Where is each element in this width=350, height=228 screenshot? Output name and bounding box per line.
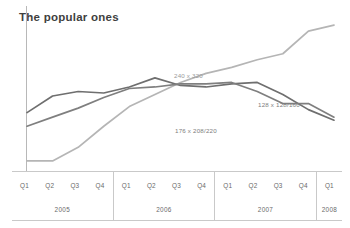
quarter-row: Q1 [317,172,342,198]
year-row: 2005 [12,198,113,220]
series-label-176x208220: 176 x 208/220 [175,127,217,134]
quarter-row: Q1Q2Q3Q4 [215,172,316,198]
quarter-row: Q1Q2Q3Q4 [12,172,113,198]
quarter-label: Q4 [291,182,316,189]
year-row: 2006 [114,198,215,220]
year-label: 2008 [322,206,337,213]
year-group-2006: Q1Q2Q3Q42006 [114,172,216,220]
plot-area: 240 x 320 128 x 128/160 176 x 208/220 [12,6,342,171]
quarter-label: Q1 [12,182,37,189]
quarter-label: Q2 [240,182,265,189]
quarter-label: Q3 [164,182,189,189]
year-group-2008: Q12008 [317,172,342,220]
series-label-240x320: 240 x 320 [174,72,203,79]
plot-svg [12,6,342,171]
series-label-128x128160: 128 x 128/160 [258,101,300,108]
quarter-label: Q2 [139,182,164,189]
year-label: 2006 [156,206,171,213]
quarter-label: Q1 [317,182,342,189]
year-group-2007: Q1Q2Q3Q42007 [215,172,317,220]
quarter-label: Q2 [37,182,62,189]
quarter-label: Q3 [62,182,87,189]
year-row: 2008 [317,198,342,220]
quarter-label: Q1 [215,182,240,189]
quarter-label: Q4 [189,182,214,189]
quarter-label: Q1 [114,182,139,189]
quarter-row: Q1Q2Q3Q4 [114,172,215,198]
year-group-2005: Q1Q2Q3Q42005 [12,172,114,220]
x-axis-table: Q1Q2Q3Q42005Q1Q2Q3Q42006Q1Q2Q3Q42007Q120… [12,171,342,221]
chart-container: The popular ones 240 x 320 128 x 128/160… [0,0,350,228]
quarter-label: Q4 [87,182,112,189]
year-row: 2007 [215,198,316,220]
year-label: 2007 [258,206,273,213]
quarter-label: Q3 [266,182,291,189]
year-label: 2005 [55,206,70,213]
